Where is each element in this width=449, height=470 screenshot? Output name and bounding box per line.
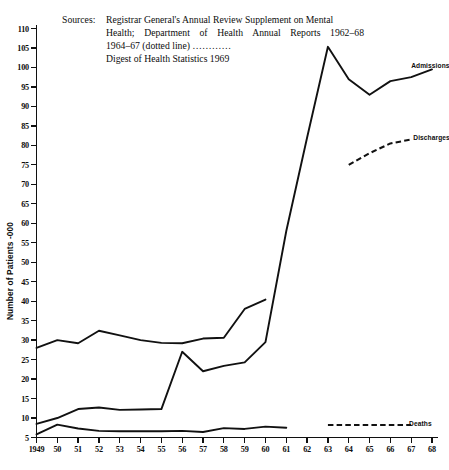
x-axis-tick-label: 56	[178, 445, 186, 454]
y-axis-tick-label: 40	[21, 297, 29, 306]
x-axis-tick-label: 63	[324, 445, 332, 454]
series-annotations: AdmissionsDischargesDeaths	[409, 62, 449, 428]
y-axis-tick-label: 25	[21, 356, 29, 365]
x-axis-tick-label: 51	[74, 445, 82, 454]
series-label-admissions: Admissions	[411, 62, 449, 69]
x-axis-tick-label: 55	[157, 445, 165, 454]
x-axis-tick-label: 65	[366, 445, 374, 454]
x-axis-tick-label: 58	[220, 445, 228, 454]
y-axis: 1101051009590858075706560555045403530252…	[17, 25, 36, 443]
series-label-deaths: Deaths	[409, 420, 432, 427]
line-chart: 1101051009590858075706560555045403530252…	[0, 0, 449, 470]
y-axis-tick-label: 15	[21, 395, 29, 404]
y-axis-tick-label: 110	[18, 25, 29, 34]
series-label-discharges: Discharges	[413, 134, 449, 142]
y-axis-title: Number of Patients -000	[5, 222, 15, 320]
x-axis: 1949505152535455565758596061626364656667…	[29, 438, 438, 455]
chart-figure: Sources:Registrar General's Annual Revie…	[0, 0, 449, 470]
y-axis-tick-label: 35	[21, 317, 29, 326]
x-axis-tick-label: 68	[428, 445, 436, 454]
y-axis-tick-label: 90	[21, 102, 29, 111]
x-axis-tick-label: 66	[386, 445, 394, 454]
y-axis-tick-label: 85	[21, 122, 29, 131]
y-axis-tick-label: 20	[21, 375, 29, 384]
series-lines	[37, 47, 433, 435]
series-line-discharges	[349, 140, 411, 165]
y-axis-tick-label: 80	[21, 141, 29, 150]
x-axis-tick-label: 60	[262, 445, 270, 454]
y-axis-tick-label: 100	[17, 63, 29, 72]
x-axis-tick-label: 52	[95, 445, 103, 454]
x-axis-tick-label: 54	[137, 445, 145, 454]
y-axis-tick-label: 70	[21, 180, 29, 189]
y-axis-tick-label: 30	[21, 336, 29, 345]
y-axis-tick-label: 55	[21, 239, 29, 248]
y-axis-tick-label: 95	[21, 83, 29, 92]
y-axis-tick-label: 5	[25, 434, 29, 443]
x-axis-tick-label: 64	[345, 445, 353, 454]
y-axis-tick-label: 50	[21, 258, 29, 267]
y-axis-tick-label: 45	[21, 278, 29, 287]
y-axis-tick-label: 65	[21, 200, 29, 209]
y-axis-tick-label: 105	[17, 44, 29, 53]
x-axis-tick-label: 1949	[29, 445, 45, 454]
x-axis-tick-label: 50	[53, 445, 61, 454]
x-axis-tick-label: 62	[303, 445, 311, 454]
x-axis-tick-label: 57	[199, 445, 207, 454]
series-line-admissions	[37, 47, 433, 424]
y-axis-tick-label: 10	[21, 414, 29, 423]
y-axis-tick-label: 60	[21, 219, 29, 228]
x-axis-tick-label: 67	[407, 445, 415, 454]
x-axis-tick-label: 53	[116, 445, 124, 454]
y-axis-title-text: Number of Patients -000	[5, 222, 15, 320]
series-line-deaths	[37, 425, 287, 435]
x-axis-tick-label: 59	[241, 445, 249, 454]
x-axis-tick-label: 61	[282, 445, 290, 454]
series-line-resident-patients	[37, 300, 266, 348]
y-axis-tick-label: 75	[21, 161, 29, 170]
